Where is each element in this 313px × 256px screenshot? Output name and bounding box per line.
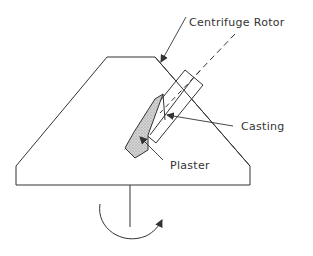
label-casting: Casting (241, 120, 285, 133)
label-plaster: Plaster (170, 159, 210, 172)
rotor-body (16, 57, 250, 185)
rotor-leader-line (161, 17, 186, 62)
label-centrifuge-rotor: Centrifuge Rotor (189, 16, 285, 29)
rotation-arrow-icon (100, 204, 162, 239)
casting-leader-line (167, 115, 233, 126)
centrifuge-diagram: Centrifuge Rotor Casting Plaster (0, 0, 313, 256)
